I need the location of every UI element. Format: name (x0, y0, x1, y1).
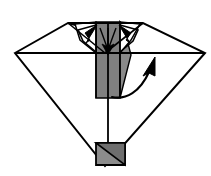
origami-diagram-figure: Symmetric diamond / kite shaped paper mo… (0, 0, 211, 176)
origami-diagram-canvas: Symmetric diamond / kite shaped paper mo… (0, 0, 211, 176)
